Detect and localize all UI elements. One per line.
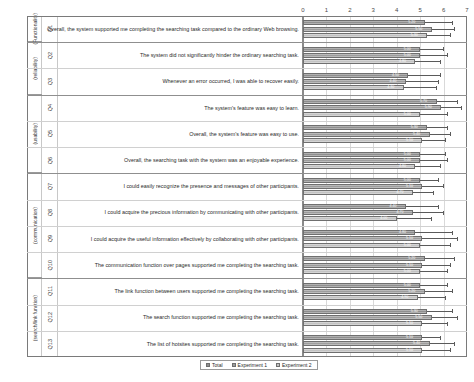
legend-label: Experiment 1: [238, 362, 267, 368]
legend-item-experiment-2[interactable]: Experiment 2: [276, 362, 311, 368]
row-separator: [27, 121, 467, 122]
row-separator: [27, 305, 467, 306]
row-separator: [27, 147, 467, 148]
x-tick-label-7: 7: [465, 4, 468, 16]
chart-legend: TotalExperiment 1Experiment 2: [200, 360, 318, 370]
row-separator: [27, 252, 467, 253]
legend-item-total[interactable]: Total: [206, 362, 223, 368]
x-axis-tick-labels: 01234567: [303, 4, 467, 16]
x-tick-label-4: 4: [395, 4, 398, 16]
legend-swatch-icon: [206, 363, 210, 367]
legend-item-experiment-1[interactable]: Experiment 1: [232, 362, 267, 368]
x-tick-label-0: 0: [301, 4, 304, 16]
chart-page: 01234567 5.205.505.305.005.004.804.504.4…: [0, 0, 474, 382]
row-separator: [27, 278, 467, 279]
row-separator: [27, 173, 467, 174]
legend-swatch-icon: [276, 363, 280, 367]
x-tick-label-2: 2: [348, 4, 351, 16]
legend-swatch-icon: [232, 363, 236, 367]
legend-label: Experiment 2: [282, 362, 311, 368]
row-separator: [27, 95, 467, 96]
row-separator: [27, 331, 467, 332]
legend-label: Total: [212, 362, 223, 368]
row-separator: [27, 200, 467, 201]
row-separator: [27, 226, 467, 227]
x-tick-label-6: 6: [442, 4, 445, 16]
x-tick-label-5: 5: [418, 4, 421, 16]
x-tick-label-3: 3: [372, 4, 375, 16]
chart-frame: [27, 16, 467, 357]
row-separator: [27, 42, 467, 43]
x-tick-label-1: 1: [325, 4, 328, 16]
row-separator: [27, 68, 467, 69]
